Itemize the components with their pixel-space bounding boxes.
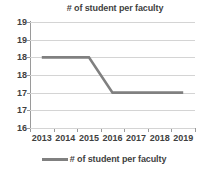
x-axis-tick-mark (54, 129, 55, 132)
plot-area (30, 22, 195, 128)
x-axis-tick-mark (30, 129, 31, 132)
y-axis-tick-label: 16 (3, 123, 27, 133)
x-axis-tick-label: 2013 (32, 133, 52, 143)
x-axis-tick-label: 2015 (79, 133, 99, 143)
x-axis-tick-label: 2014 (55, 133, 75, 143)
x-axis-tick-label: 2017 (126, 133, 146, 143)
series-line (42, 57, 183, 92)
y-axis-tick-label: 19 (3, 35, 27, 45)
gridline (30, 128, 195, 129)
x-axis-tick-label: 2018 (150, 133, 170, 143)
x-axis-tick-mark (148, 129, 149, 132)
chart-title: # of student per faculty (26, 3, 204, 13)
legend-entry-label: # of student per faculty (70, 154, 167, 164)
legend-line-swatch (42, 158, 68, 161)
y-axis-tick-label: 18 (3, 70, 27, 80)
x-axis-tick-mark (171, 129, 172, 132)
x-axis-tick-mark (101, 129, 102, 132)
y-axis-labels: 19191818171716 (0, 0, 27, 174)
y-axis-tick-label: 17 (3, 105, 27, 115)
x-axis-tick-mark (195, 129, 196, 132)
y-axis-tick-label: 17 (3, 88, 27, 98)
x-axis-tick-label: 2019 (173, 133, 193, 143)
chart-legend: # of student per faculty (0, 154, 208, 164)
x-axis-tick-label: 2016 (102, 133, 122, 143)
y-axis-tick-label: 19 (3, 17, 27, 27)
x-axis-tick-mark (124, 129, 125, 132)
chart-container: # of student per faculty 19191818171716 … (0, 0, 208, 174)
y-axis-tick-label: 18 (3, 52, 27, 62)
x-axis-tick-mark (77, 129, 78, 132)
series-line-group (30, 22, 195, 128)
